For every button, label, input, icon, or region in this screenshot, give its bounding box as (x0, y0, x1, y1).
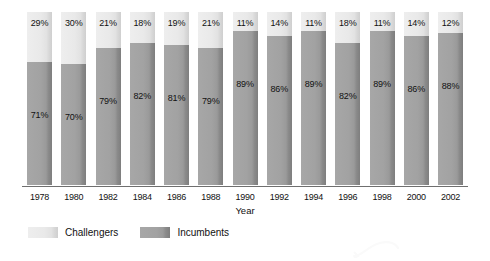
bar-segment-incumbents[interactable]: 89% (301, 31, 326, 185)
bar-segment-incumbents[interactable]: 86% (404, 36, 429, 185)
bar-segment-challengers[interactable]: 11% (370, 12, 395, 31)
bar-column[interactable]: 19%81% (164, 12, 189, 185)
bar-value-label: 21% (198, 18, 223, 28)
x-tick-label: 1992 (267, 191, 292, 204)
bar-value-label: 89% (301, 79, 326, 89)
x-tick-label: 2000 (404, 191, 429, 204)
legend-swatch-icon (140, 227, 170, 238)
bar-segment-challengers[interactable]: 19% (164, 12, 189, 45)
x-tick-label: 1990 (233, 191, 258, 204)
bar-column[interactable]: 21%79% (96, 12, 121, 185)
legend-label: Incumbents (177, 227, 229, 238)
bar-value-label: 19% (164, 18, 189, 28)
bar-column[interactable]: 11%89% (370, 12, 395, 185)
bar-column[interactable]: 21%79% (198, 12, 223, 185)
bar-segment-incumbents[interactable]: 88% (438, 33, 463, 185)
bar-value-label: 82% (130, 91, 155, 101)
bar-value-label: 89% (233, 79, 258, 89)
bar-value-label: 11% (301, 18, 326, 28)
bar-segment-challengers[interactable]: 12% (438, 12, 463, 33)
bar-value-label: 82% (335, 91, 360, 101)
bar-segment-incumbents[interactable]: 79% (198, 48, 223, 185)
bar-segment-challengers[interactable]: 18% (335, 12, 360, 43)
legend-label: Challengers (65, 227, 118, 238)
bar-value-label: 12% (438, 18, 463, 28)
legend-swatch-icon (28, 227, 58, 238)
x-tick-label: 1998 (370, 191, 395, 204)
x-tick-label: 2002 (438, 191, 463, 204)
bar-segment-incumbents[interactable]: 89% (233, 31, 258, 185)
plot-area: 29%71%30%70%21%79%18%82%19%81%21%79%11%8… (27, 12, 463, 185)
bar-column[interactable]: 14%86% (404, 12, 429, 185)
bar-value-label: 29% (27, 18, 52, 28)
chart-legend: ChallengersIncumbents (28, 227, 229, 238)
bar-column[interactable]: 11%89% (301, 12, 326, 185)
bar-value-label: 79% (198, 96, 223, 106)
bar-value-label: 89% (370, 79, 395, 89)
bar-value-label: 70% (61, 112, 86, 122)
x-tick-label: 1984 (130, 191, 155, 204)
bar-value-label: 30% (61, 18, 86, 28)
bar-segment-challengers[interactable]: 29% (27, 12, 52, 62)
bar-segment-challengers[interactable]: 11% (301, 12, 326, 31)
bar-segment-challengers[interactable]: 14% (404, 12, 429, 36)
bar-segment-incumbents[interactable]: 71% (27, 62, 52, 185)
bar-segment-challengers[interactable]: 21% (198, 12, 223, 48)
bar-column[interactable]: 14%86% (267, 12, 292, 185)
bar-column[interactable]: 30%70% (61, 12, 86, 185)
bar-value-label: 11% (370, 18, 395, 28)
bar-segment-challengers[interactable]: 14% (267, 12, 292, 36)
bar-segment-incumbents[interactable]: 82% (130, 43, 155, 185)
bar-segment-incumbents[interactable]: 81% (164, 45, 189, 185)
bar-value-label: 14% (404, 18, 429, 28)
x-tick-label: 1986 (164, 191, 189, 204)
bar-value-label: 21% (96, 18, 121, 28)
bar-segment-challengers[interactable]: 18% (130, 12, 155, 43)
bar-column[interactable]: 11%89% (233, 12, 258, 185)
x-tick-label: 1978 (27, 191, 52, 204)
bar-column[interactable]: 12%88% (438, 12, 463, 185)
bar-value-label: 18% (130, 18, 155, 28)
bar-column[interactable]: 29%71% (27, 12, 52, 185)
bar-segment-incumbents[interactable]: 86% (267, 36, 292, 185)
bar-segment-incumbents[interactable]: 70% (61, 64, 86, 185)
bar-value-label: 71% (27, 110, 52, 120)
bar-value-label: 81% (164, 93, 189, 103)
bar-segment-challengers[interactable]: 21% (96, 12, 121, 48)
bar-value-label: 86% (267, 84, 292, 94)
bar-value-label: 18% (335, 18, 360, 28)
bar-column[interactable]: 18%82% (335, 12, 360, 185)
x-axis-tick-labels: 1978198019821984198619881990199219941996… (27, 191, 463, 204)
x-axis-title: Year (0, 205, 490, 216)
x-tick-label: 1982 (96, 191, 121, 204)
x-axis-line (22, 186, 468, 187)
x-tick-label: 1980 (61, 191, 86, 204)
watermark-artifact (352, 236, 412, 258)
x-tick-label: 1994 (301, 191, 326, 204)
bar-segment-incumbents[interactable]: 79% (96, 48, 121, 185)
legend-item-challengers[interactable]: Challengers (28, 227, 118, 238)
bar-value-label: 88% (438, 81, 463, 91)
bar-value-label: 11% (233, 18, 258, 28)
bar-column[interactable]: 18%82% (130, 12, 155, 185)
legend-item-incumbents[interactable]: Incumbents (140, 227, 229, 238)
stacked-bar-chart: 29%71%30%70%21%79%18%82%19%81%21%79%11%8… (0, 0, 490, 261)
bar-value-label: 86% (404, 84, 429, 94)
bar-segment-challengers[interactable]: 30% (61, 12, 86, 64)
x-tick-label: 1996 (335, 191, 360, 204)
x-tick-label: 1988 (198, 191, 223, 204)
bar-segment-challengers[interactable]: 11% (233, 12, 258, 31)
bar-segment-incumbents[interactable]: 89% (370, 31, 395, 185)
bar-segment-incumbents[interactable]: 82% (335, 43, 360, 185)
bar-value-label: 14% (267, 18, 292, 28)
bar-value-label: 79% (96, 96, 121, 106)
